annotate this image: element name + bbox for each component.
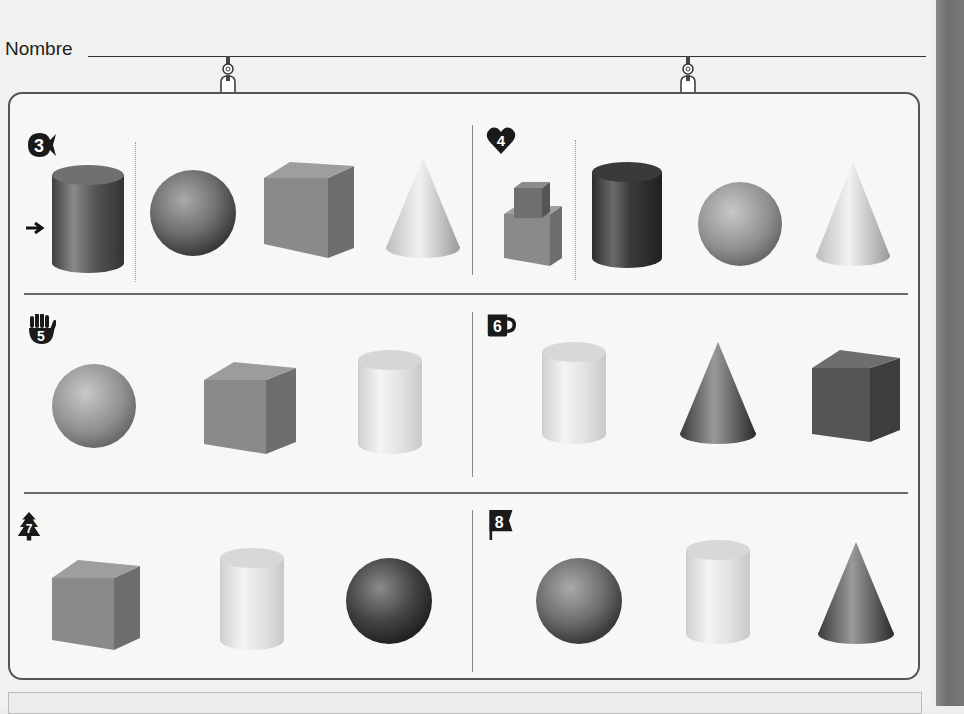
page-edge-shadow: [936, 0, 964, 706]
svg-text:7: 7: [26, 522, 33, 536]
cone-shape: [814, 162, 892, 268]
cube-shape: [264, 160, 356, 258]
cone-shape: [816, 542, 896, 646]
next-exercise-box: [8, 692, 922, 714]
cylinder-shape: [684, 538, 752, 646]
cylinder-shape: [218, 546, 286, 652]
cylinder-shape: [356, 348, 424, 456]
cone-shape: [678, 342, 758, 446]
sphere-shape: [148, 168, 238, 258]
tree-icon: 7: [14, 512, 44, 542]
fish-icon: 3: [26, 130, 56, 160]
flag-icon: 8: [486, 510, 516, 540]
name-input-line[interactable]: [88, 56, 926, 57]
svg-text:6: 6: [493, 318, 502, 335]
svg-text:4: 4: [497, 132, 506, 149]
sphere-shape: [696, 180, 784, 268]
column-divider: [472, 312, 473, 477]
cylinder-shape: [50, 163, 126, 275]
mug-icon: 6: [486, 310, 516, 340]
binder-clip-icon: [678, 56, 698, 94]
heart-icon: 4: [486, 126, 516, 156]
cube-shape: [810, 348, 902, 444]
name-label: Nombre: [5, 38, 73, 60]
binder-clip-icon: [218, 56, 238, 94]
cylinder-shape: [590, 160, 664, 270]
rectangular-prism-shape: [50, 556, 142, 652]
cone-shape: [384, 158, 462, 260]
arrow-right-icon: [26, 222, 48, 234]
svg-text:8: 8: [495, 514, 504, 531]
svg-text:3: 3: [34, 136, 44, 156]
example-divider: [135, 142, 136, 282]
column-divider: [472, 125, 473, 275]
cylinder-shape: [540, 340, 608, 446]
row-divider: [24, 293, 908, 295]
stacked-cubes-shape: [504, 178, 564, 268]
sphere-shape: [344, 556, 434, 646]
sphere-shape: [534, 556, 624, 646]
cube-shape: [202, 360, 298, 456]
sphere-shape: [50, 362, 138, 450]
hand-icon: 5: [26, 314, 56, 344]
column-divider: [472, 510, 473, 672]
example-divider: [575, 140, 576, 280]
row-divider: [24, 492, 908, 494]
svg-text:5: 5: [37, 328, 45, 344]
